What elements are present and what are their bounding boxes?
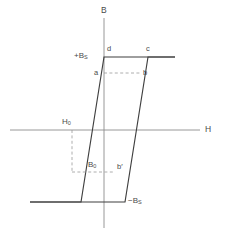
point-label-b-prime: b′: [117, 163, 123, 171]
b-zero-label: B0: [88, 161, 96, 170]
positive-saturation-label: +BS: [74, 52, 88, 61]
point-label-d: d: [107, 45, 111, 53]
b-axis-label: B: [101, 6, 107, 15]
loop-upper-branch: [30, 57, 175, 202]
bh-hysteresis-figure: B H +BS −BS H0 B0 a b c d b′: [0, 0, 227, 235]
h-zero-label: H0: [62, 118, 71, 127]
point-label-c: c: [146, 45, 150, 53]
h-axis-label: H: [205, 125, 211, 134]
negative-saturation-label: −BS: [128, 197, 142, 206]
point-label-a: a: [94, 69, 98, 77]
loop-lower-branch: [30, 57, 175, 202]
point-label-b: b: [143, 69, 147, 77]
hysteresis-plot-canvas: [0, 0, 227, 235]
